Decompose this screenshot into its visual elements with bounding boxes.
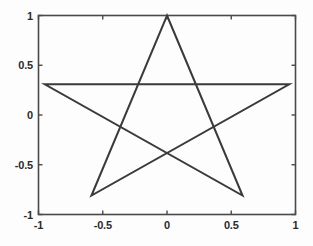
- xtick-label-1: -0.5: [94, 219, 112, 231]
- ytick-label-1: -0.5: [15, 159, 33, 171]
- plot-svg: [0, 0, 313, 246]
- x-tick-marks-group: [39, 16, 296, 215]
- xtick-label-4: 1: [293, 219, 299, 231]
- ytick-label-0: -1: [24, 209, 33, 221]
- data-series-group: [45, 16, 289, 196]
- xtick-label-3: 0.5: [224, 219, 239, 231]
- ytick-label-2: 0: [27, 109, 33, 121]
- xtick-label-0: -1: [34, 219, 43, 231]
- xtick-label-2: 0: [164, 219, 170, 231]
- ytick-label-3: 0.5: [18, 59, 33, 71]
- axes-box: [39, 16, 296, 215]
- figure-canvas: -1 -0.5 0 0.5 1 -1 -0.5 0 0.5 1: [0, 0, 313, 246]
- y-tick-marks-group: [39, 16, 296, 215]
- pentagram-star-path: [45, 16, 289, 196]
- ytick-label-4: 1: [27, 10, 33, 22]
- axes-box-group: [39, 16, 296, 215]
